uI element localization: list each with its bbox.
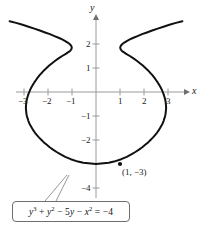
x-tick-label-3: 3 [166, 97, 171, 106]
x-tick-label-2: 2 [142, 97, 147, 106]
x-tick-label-1: 1 [118, 97, 123, 106]
y-tick-label-1: 1 [86, 64, 91, 73]
x-tick-label--2: −2 [42, 97, 52, 106]
axis-group [16, 14, 190, 198]
plot-canvas [0, 0, 204, 226]
y-tick-label-2: 2 [86, 40, 91, 49]
y-axis-arrowhead [93, 14, 99, 20]
equation-text: y3 + y2 − 5y − x2 = −4 [29, 207, 113, 217]
x-axis-label: x [192, 86, 196, 96]
annotated-point-label: (1, −3) [122, 168, 147, 177]
y-tick-label--4: −4 [81, 184, 91, 193]
y-tick-label--1: −1 [81, 112, 91, 121]
x-tick-label--1: −1 [66, 97, 76, 106]
callout-leader-lines [45, 175, 69, 201]
equation-callout-box: y3 + y2 − 5y − x2 = −4 [12, 201, 130, 222]
annotated-point-marker [118, 162, 122, 166]
y-tick-label--2: −2 [81, 136, 91, 145]
x-tick-label--3: −3 [18, 97, 28, 106]
y-axis-label: y [90, 3, 94, 13]
graph-figure: x y −3 −2 −1 1 2 3 2 1 −1 −2 −4 (1, −3) … [0, 0, 204, 226]
curve-branch-1 [96, 21, 182, 164]
x-axis-arrowhead [184, 89, 190, 95]
